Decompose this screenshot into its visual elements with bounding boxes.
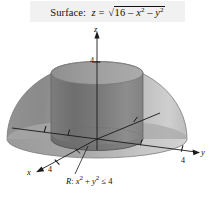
region-relation: ≤: [101, 176, 106, 186]
y-axis-arrowhead: [193, 150, 200, 156]
surface-figure: Surface: z = √16 – x2 – y2 z y x 4 4 4 R…: [0, 0, 212, 197]
radicand-minus-2: –: [147, 7, 152, 18]
region-x-exponent: 2: [79, 174, 83, 182]
x-axis-tick-label-4: 4: [48, 166, 52, 174]
radicand: 16 – x2 – y2: [114, 6, 165, 18]
caption-prefix: Surface:: [50, 7, 86, 18]
region-y-exponent: 2: [96, 174, 100, 182]
radical-group: √16 – x2 – y2: [107, 6, 164, 18]
caption-variable-z: z: [92, 7, 96, 18]
surface-diagram-canvas: [0, 0, 212, 197]
radicand-constant: 16: [115, 7, 126, 18]
caption-equals: =: [98, 7, 104, 18]
radicand-y-exponent: 2: [160, 5, 164, 13]
x-axis-arrowhead: [36, 167, 44, 173]
region-colon: :: [71, 176, 73, 186]
x-axis-label: x: [27, 168, 31, 177]
radicand-minus-1: –: [128, 7, 133, 18]
caption-text: Surface: z = √16 – x2 – y2: [50, 6, 164, 18]
region-bound: 4: [108, 176, 112, 186]
y-axis-label: y: [201, 148, 205, 157]
region-r-label: R: x2 + y2 ≤ 4: [66, 177, 112, 186]
radicand-x-exponent: 2: [141, 5, 145, 13]
y-axis-tick-label-4: 4: [181, 157, 185, 165]
z-axis-tick-label-4: 4: [90, 57, 94, 65]
z-axis-label: z: [94, 25, 97, 34]
figure-caption: Surface: z = √16 – x2 – y2: [30, 1, 185, 22]
region-plus: +: [85, 176, 90, 186]
